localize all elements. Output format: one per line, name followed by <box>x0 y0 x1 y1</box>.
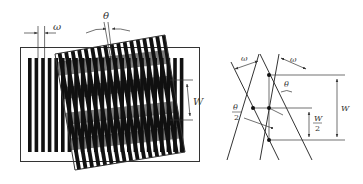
intersection-points <box>251 73 273 142</box>
fringe-width-label: W <box>193 96 204 107</box>
fringe-width-label: W <box>341 104 350 113</box>
moire-diagram: ω θ W <box>0 0 363 184</box>
svg-text:W: W <box>314 114 323 123</box>
half-width-label: W 2 <box>313 114 323 133</box>
right-panel: ω ω θ θ 2 W 2 W <box>227 54 350 160</box>
pitch-right-label: ω <box>290 55 297 64</box>
left-panel: ω θ W <box>21 10 205 184</box>
svg-text:θ: θ <box>233 103 238 112</box>
angle-label: θ <box>103 10 109 21</box>
svg-text:2: 2 <box>315 124 320 133</box>
pitch-dimension <box>24 26 56 58</box>
construction-lines <box>244 75 345 140</box>
angle-label: θ <box>284 80 289 89</box>
pitch-left-label: ω <box>241 54 248 63</box>
svg-text:2: 2 <box>234 113 239 122</box>
pitch-label: ω <box>53 21 61 32</box>
rotated-grating-bars <box>51 31 195 184</box>
